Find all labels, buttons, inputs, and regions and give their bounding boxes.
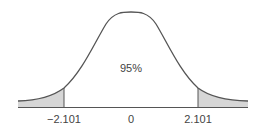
right-tail-region [198, 88, 248, 107]
tick-label-zero: 0 [128, 113, 134, 125]
center-percent-label: 95% [120, 62, 142, 74]
left-tail-region [18, 88, 64, 107]
tick-label-right: 2.101 [184, 113, 212, 125]
tick-label-left: −2.101 [47, 113, 81, 125]
distribution-curve [18, 12, 248, 101]
